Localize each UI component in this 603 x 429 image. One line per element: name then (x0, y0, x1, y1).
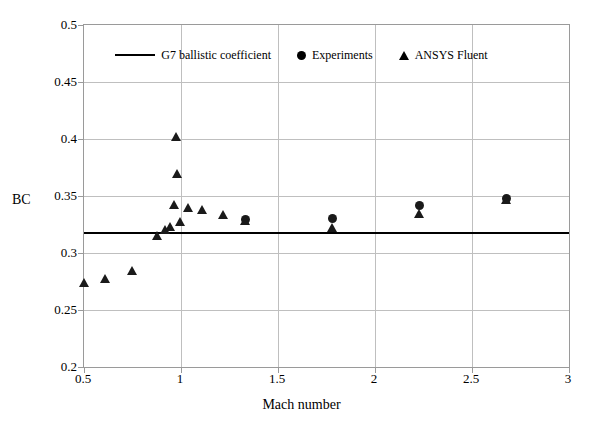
gridline-vertical (472, 25, 473, 367)
plot-area (83, 24, 570, 368)
x-axis-tick-label: 0.5 (75, 372, 91, 386)
legend-item-label: G7 ballistic coefficient (161, 48, 271, 62)
legend-item-label: ANSYS Fluent (415, 48, 488, 62)
x-axis-tick-labels: 0.511.522.53 (83, 372, 570, 390)
legend-item[interactable]: ANSYS Fluent (399, 48, 488, 62)
data-point-ansys-fluent (327, 223, 337, 232)
y-axis-tick-label: 0.25 (54, 303, 77, 316)
legend-item-label: Experiments (312, 48, 373, 62)
data-point-ansys-fluent (127, 266, 137, 275)
legend-item[interactable]: Experiments (297, 48, 373, 62)
y-axis-tick-label: 0.5 (61, 18, 77, 31)
ballistic-coefficient-chart: BC 0.20.250.30.350.40.450.5 0.511.522.53… (0, 0, 603, 429)
gridline-vertical (278, 25, 279, 367)
legend-item[interactable]: G7 ballistic coefficient (115, 48, 271, 62)
y-axis-tick-label: 0.3 (61, 246, 77, 259)
x-axis-tick-label: 2.5 (463, 372, 479, 386)
data-point-ansys-fluent (175, 217, 185, 226)
y-axis-tick (78, 196, 84, 197)
y-axis-tick-label: 0.4 (61, 132, 77, 145)
data-point-ansys-fluent (183, 203, 193, 212)
gridline-vertical (181, 25, 182, 367)
y-axis-tick (78, 310, 84, 311)
x-axis-tick-label: 3 (565, 372, 572, 386)
data-point-ansys-fluent (100, 274, 110, 283)
data-point-ansys-fluent (169, 200, 179, 209)
legend-line-icon (115, 54, 155, 56)
x-axis-title: Mach number (0, 398, 603, 412)
y-axis-tick-label: 0.35 (54, 189, 77, 202)
y-axis-tick (78, 253, 84, 254)
data-point-experiments (328, 214, 337, 223)
gridline-horizontal (84, 196, 569, 197)
data-point-ansys-fluent (171, 132, 181, 141)
gridline-horizontal (84, 82, 569, 83)
gridline-vertical (375, 25, 376, 367)
data-point-ansys-fluent (501, 195, 511, 204)
y-axis-tick-label: 0.45 (54, 75, 77, 88)
gridline-horizontal (84, 139, 569, 140)
x-axis-tick-label: 1 (177, 372, 184, 386)
x-axis-tick-label: 1.5 (269, 372, 285, 386)
y-axis-title: BC (12, 193, 31, 207)
y-axis-tick-labels: 0.20.250.30.350.40.450.5 (40, 24, 77, 368)
y-axis-tick (78, 25, 84, 26)
y-axis-tick (78, 139, 84, 140)
data-point-ansys-fluent (197, 205, 207, 214)
data-point-ansys-fluent (165, 222, 175, 231)
gridline-horizontal (84, 253, 569, 254)
legend-triangle-icon (399, 51, 409, 60)
chart-legend: G7 ballistic coefficientExperimentsANSYS… (0, 48, 603, 62)
data-point-ansys-fluent (79, 278, 89, 287)
x-axis-tick-label: 2 (371, 372, 378, 386)
data-point-ansys-fluent (218, 210, 228, 219)
data-point-ansys-fluent (240, 216, 250, 225)
gridline-horizontal (84, 310, 569, 311)
y-axis-tick (78, 82, 84, 83)
legend-circle-icon (297, 51, 306, 60)
data-point-ansys-fluent (414, 209, 424, 218)
data-point-ansys-fluent (172, 169, 182, 178)
